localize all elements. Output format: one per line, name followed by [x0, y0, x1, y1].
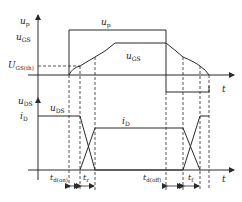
top-time-label: t — [222, 84, 226, 94]
id-waveform — [80, 128, 200, 170]
uds-curve-label: uDS — [50, 103, 65, 114]
bottom-y-axis-label: uDS — [18, 96, 33, 107]
tr-label: tr — [83, 173, 89, 183]
pulse-label: up — [101, 17, 111, 29]
tf-label: tf — [188, 173, 194, 183]
top-panel: up uGS UGS(th) up uGS t — [8, 15, 234, 98]
td-on-label: td(on) — [50, 173, 68, 183]
top-y-axis-label: up — [20, 16, 30, 28]
bottom-time-label: t — [222, 174, 226, 184]
id-curve-label: iD — [122, 116, 130, 127]
bottom-panel: uDS iD uDS iD t td(on) tr td(off) tf — [18, 96, 234, 186]
switching-waveform-diagram: up uGS UGS(th) up uGS t uDS iD uDS iD t … — [0, 0, 242, 202]
threshold-label: UGS(th) — [8, 60, 34, 71]
ugs-curve-label: uGS — [126, 51, 141, 62]
id-axis-label: iD — [20, 111, 28, 122]
td-off-label: td(off) — [143, 173, 161, 183]
ugs-axis-label: uGS — [16, 32, 31, 43]
